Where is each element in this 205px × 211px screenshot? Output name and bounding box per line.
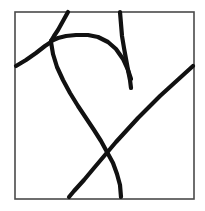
- sketch-canvas: [0, 0, 205, 211]
